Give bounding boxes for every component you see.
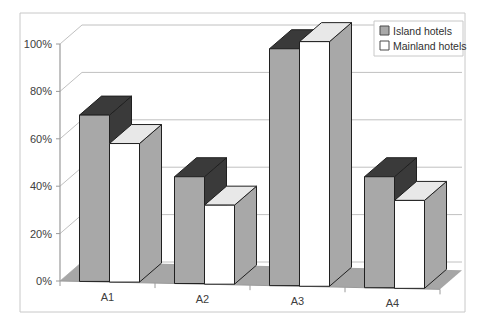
bar-front-face[interactable] [365, 177, 395, 288]
chart-container: 0%20%40%60%80%100%A1A2A3A4Island hotelsM… [0, 0, 486, 328]
y-axis-tick-label: 0% [36, 275, 52, 287]
y-axis-tick-label: 40% [30, 180, 52, 192]
x-axis-category-label: A2 [196, 293, 209, 305]
legend-swatch [380, 26, 389, 35]
bar-front-face[interactable] [175, 177, 205, 284]
y-axis-tick-label: 20% [30, 228, 52, 240]
bar-front-face[interactable] [80, 115, 110, 281]
bar-chart-3d: 0%20%40%60%80%100%A1A2A3A4Island hotelsM… [0, 0, 486, 328]
y-axis-tick-label: 80% [30, 85, 52, 97]
y-axis-tick-label: 100% [24, 38, 52, 50]
bar-front-face[interactable] [395, 200, 425, 288]
x-axis-category-label: A1 [101, 291, 114, 303]
bar-side-face [330, 23, 352, 287]
bar-front-face[interactable] [270, 49, 300, 286]
legend-item-label: Island hotels [393, 25, 452, 37]
bar-front-face[interactable] [110, 144, 140, 283]
x-axis-category-label: A3 [291, 295, 304, 307]
x-axis-category-label: A4 [386, 297, 399, 309]
y-axis-tick-label: 60% [30, 133, 52, 145]
legend-item-label: Mainland hotels [393, 40, 467, 52]
bar-front-face[interactable] [205, 205, 235, 284]
legend-swatch [380, 41, 389, 50]
bar-front-face[interactable] [300, 42, 330, 287]
bar-side-face [140, 125, 162, 283]
